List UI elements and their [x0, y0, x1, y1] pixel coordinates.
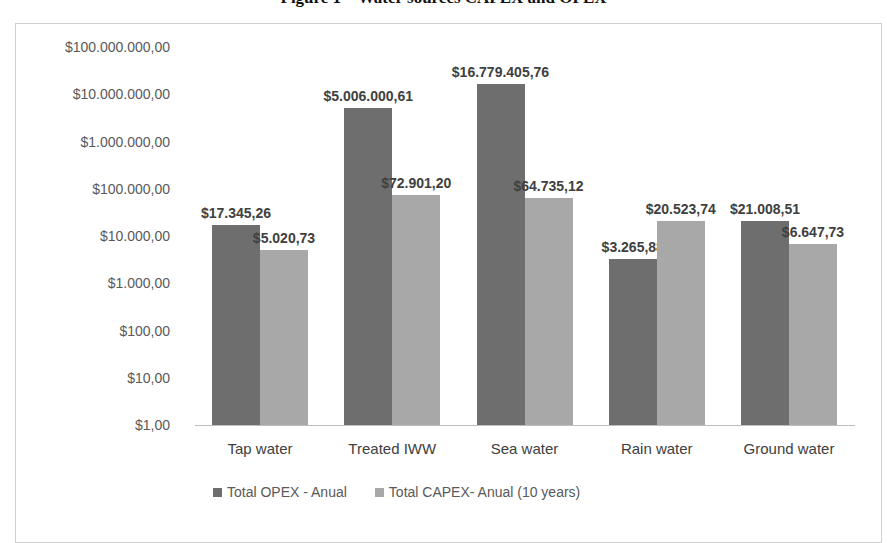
data-label: $17.345,26: [201, 205, 271, 221]
data-label: $20.523,74: [646, 201, 716, 217]
data-label: $5.020,73: [253, 230, 315, 246]
y-tick-label: $100.000,00: [0, 181, 170, 197]
x-axis-line: [195, 425, 855, 426]
capex-bar: [657, 221, 705, 425]
capex-bar: [789, 244, 837, 425]
capex-bar: [260, 250, 308, 425]
data-label: $72.901,20: [381, 175, 451, 191]
legend: Total OPEX - Anual Total CAPEX- Anual (1…: [213, 484, 580, 500]
y-tick-label: $10.000,00: [0, 228, 170, 244]
legend-label-opex: Total OPEX - Anual: [227, 484, 347, 500]
opex-bar: [212, 225, 260, 425]
opex-bar: [609, 259, 657, 425]
data-label: $5.006.000,61: [323, 88, 413, 104]
legend-item-capex: Total CAPEX- Anual (10 years): [375, 484, 580, 500]
data-label: $64.735,12: [513, 178, 583, 194]
data-label: $16.779.405,76: [452, 64, 549, 80]
y-tick-label: $1.000.000,00: [0, 134, 170, 150]
y-tick-label: $100,00: [0, 323, 170, 339]
y-tick-label: $1.000,00: [0, 275, 170, 291]
opex-bar: [741, 221, 789, 425]
x-category-label: Rain water: [621, 440, 693, 457]
data-label: $6.647,73: [782, 224, 844, 240]
y-tick-label: $10.000.000,00: [0, 86, 170, 102]
capex-bar: [525, 198, 573, 425]
x-category-label: Treated IWW: [348, 440, 436, 457]
data-label: $3.265,88: [602, 239, 664, 255]
data-label: $21.008,51: [730, 201, 800, 217]
opex-bar: [344, 108, 392, 425]
x-category-label: Sea water: [491, 440, 559, 457]
figure-title: Figure 1 – Water sources CAPEX and OPEX: [0, 0, 887, 8]
capex-bar: [392, 195, 440, 425]
opex-bar: [477, 84, 525, 425]
legend-swatch-opex: [213, 488, 222, 497]
y-tick-label: $1,00: [0, 417, 170, 433]
legend-label-capex: Total CAPEX- Anual (10 years): [389, 484, 580, 500]
y-tick-label: $100.000.000,00: [0, 39, 170, 55]
x-category-label: Tap water: [227, 440, 292, 457]
x-category-label: Ground water: [744, 440, 835, 457]
legend-item-opex: Total OPEX - Anual: [213, 484, 347, 500]
legend-swatch-capex: [375, 488, 384, 497]
y-tick-label: $10,00: [0, 370, 170, 386]
